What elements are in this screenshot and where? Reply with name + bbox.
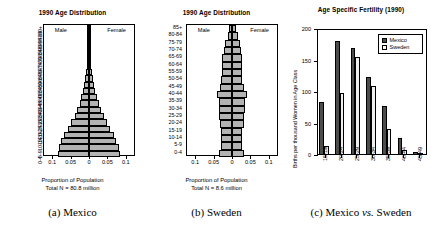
x-axis-caption-mexico-line1: Proportion of Population — [0, 176, 145, 184]
pyramid-bar-male — [219, 113, 232, 120]
pyramid-bar-male — [221, 76, 232, 83]
x-axis-caption-sweden-line1: Proportion of Population — [145, 176, 288, 184]
figure-population-pyramids: 1990 Age Distribution Male Female 100+95… — [0, 0, 434, 234]
y-axis-tick — [314, 92, 317, 93]
pyramid-bar-male — [219, 106, 232, 113]
age-class-label: 10-14 — [152, 135, 182, 140]
legend-fertility: Mexico Sweden — [378, 34, 423, 54]
subcaption-fertility-text: Mexico — [326, 206, 360, 218]
pyramid-bar-male — [221, 128, 232, 135]
y-axis-tick — [314, 155, 317, 156]
panel-fertility: Age Specific Fertility (1990) Births per… — [288, 0, 434, 234]
pyramid-bar-male — [221, 135, 232, 142]
chart-title-fertility: Age Specific Fertility (1990) — [288, 6, 434, 13]
pyramid-bar-male — [219, 98, 232, 105]
subcaption-fertility-vs: vs. — [362, 206, 374, 218]
pyramid-bar-female — [232, 54, 242, 61]
subcaption-sweden-text: Sweden — [207, 206, 242, 218]
age-class-label: 40-44 — [152, 91, 182, 96]
pyramid-bar-female — [232, 142, 242, 149]
age-class-label: 85+ — [152, 25, 182, 30]
age-class-label: 0-4 — [152, 150, 182, 155]
panel-sweden: 1990 Age Distribution Male Female 85+80-… — [145, 0, 288, 234]
legend-label-sweden: Sweden — [390, 45, 410, 51]
bar-sweden — [355, 57, 360, 155]
subcaption-fertility-prefix: (c) — [311, 206, 323, 218]
pyramid-bar-female — [232, 98, 245, 105]
age-class-label: 55-59 — [152, 69, 182, 74]
y-axis-tick-label: 100 — [297, 89, 311, 95]
chart-title-sweden: 1990 Age Distribution — [145, 9, 288, 16]
age-class-label: 25-29 — [152, 113, 182, 118]
x-axis-mexico: 0.10.0500.050.1 — [43, 156, 135, 160]
female-label-sweden: Female — [250, 27, 269, 33]
pyramid-bar-female — [232, 62, 242, 69]
x-axis-category-label: 35-39 — [385, 147, 391, 161]
pyramid-bar-female — [232, 40, 240, 47]
bar-sweden — [340, 93, 345, 155]
center-axis-line — [232, 25, 233, 155]
y-axis-tick — [314, 124, 317, 125]
pyramid-bar-male — [221, 142, 232, 149]
age-class-label: 45-49 — [152, 84, 182, 89]
panel-mexico: 1990 Age Distribution Male Female 100+95… — [0, 0, 145, 234]
pyramid-bar-female — [232, 113, 244, 120]
y-axis-tick — [314, 29, 317, 30]
age-class-label: 15-19 — [152, 128, 182, 133]
x-axis-tick-label: 0.05 — [208, 159, 219, 165]
x-axis-tick-label: 0.05 — [65, 159, 76, 165]
age-class-label: 35-39 — [152, 98, 182, 103]
pyramid-bar-male — [217, 91, 232, 98]
age-class-label: 75-79 — [152, 40, 182, 45]
subcaption-sweden-prefix: (b) — [191, 206, 204, 218]
subcaption-mexico-prefix: (a) — [48, 206, 60, 218]
pyramid-bar-female — [232, 120, 244, 127]
pyramid-plot-sweden: Male Female — [186, 24, 278, 156]
legend-swatch-mexico-icon — [382, 38, 387, 43]
pyramid-bar-female — [232, 84, 244, 91]
x-axis-tick-label: 0.1 — [48, 159, 56, 165]
pyramid-bar-male — [220, 120, 232, 127]
bar-group — [333, 30, 349, 155]
age-class-label: 30-34 — [152, 106, 182, 111]
age-class-label: 80-84 — [152, 32, 182, 37]
pyramid-bar-female — [232, 69, 242, 76]
subcaption-fertility: (c) Mexico vs. Sweden — [288, 206, 434, 218]
legend-item-sweden: Sweden — [382, 44, 419, 51]
male-label-sweden: Male — [198, 27, 210, 33]
age-class-label: 70-74 — [152, 47, 182, 52]
chart-title-mexico: 1990 Age Distribution — [0, 9, 145, 16]
subcaption-mexico: (a) Mexico — [0, 206, 145, 218]
male-label-mexico: Male — [55, 27, 67, 33]
x-axis-category-label: 45-49 — [417, 147, 423, 161]
fertility-plot: Mexico Sweden — [317, 29, 427, 155]
subcaption-sweden: (b) Sweden — [145, 206, 288, 218]
x-axis-tick-label: 0.1 — [265, 159, 273, 165]
x-axis-category-label: 30-34 — [370, 147, 376, 161]
x-axis-sweden: 0.10.0500.050.1 — [186, 156, 278, 160]
age-class-label: 60-64 — [152, 62, 182, 67]
pyramid-bar-female — [232, 91, 247, 98]
x-axis-tick-label: 0 — [230, 159, 233, 165]
bar-group — [317, 30, 333, 155]
y-axis-tick-label: 200 — [297, 26, 311, 32]
age-class-label: 65-69 — [152, 54, 182, 59]
female-label-mexico: Female — [107, 27, 126, 33]
y-axis-tick-label: 0 — [297, 152, 311, 158]
x-axis-tick-label: 0.1 — [191, 159, 199, 165]
pyramid-bar-female — [232, 106, 245, 113]
legend-swatch-sweden-icon — [382, 45, 387, 50]
x-axis-category-label: 40-44 — [401, 147, 407, 161]
pyramid-bar-female — [232, 47, 241, 54]
subcaption-fertility-text2: Sweden — [377, 206, 412, 218]
bar-sweden — [371, 86, 376, 155]
y-axis-tick — [314, 61, 317, 62]
pyramid-bar-female — [232, 25, 236, 32]
pyramid-plot-mexico: Male Female — [43, 24, 135, 156]
x-axis-tick-label: 0.05 — [245, 159, 256, 165]
x-axis-caption-mexico-line2: Total N = 80.8 million — [0, 184, 145, 192]
subcaption-mexico-text: Mexico — [63, 206, 97, 218]
y-axis-tick-label: 150 — [297, 58, 311, 64]
age-class-label: 50-54 — [152, 76, 182, 81]
x-axis-tick-label: 0.05 — [102, 159, 113, 165]
